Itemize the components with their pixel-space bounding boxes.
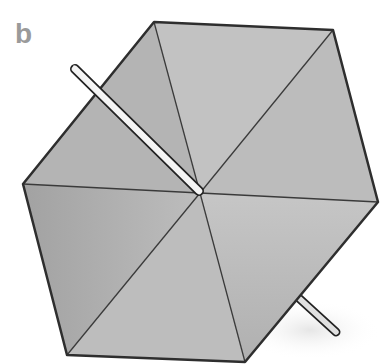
umbrella-illustration [0,0,388,364]
